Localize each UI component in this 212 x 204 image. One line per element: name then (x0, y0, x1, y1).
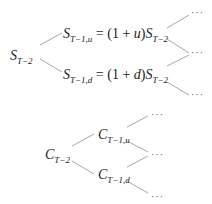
stock-root-node: ST−2 (10, 49, 33, 66)
stock-down-node: ST−1,d = (1 + d)ST−2 (63, 68, 168, 85)
option-continuation-2: ··· (151, 150, 164, 160)
equation-prefix: = (1 + (92, 26, 133, 41)
up-factor: u (134, 26, 141, 41)
subscript: T−1,u (107, 135, 129, 145)
equation-prefix: = (1 + (92, 67, 133, 82)
option-root-node: CT−2 (45, 148, 70, 165)
stock-up-node: ST−1,u = (1 + u)ST−2 (63, 27, 168, 44)
option-up-node: CT−1,u (98, 128, 130, 145)
symbol: C (45, 147, 54, 162)
edge-option-up-up (127, 116, 148, 127)
edge-option-up-down (127, 141, 148, 152)
option-continuation-3: ··· (151, 192, 164, 202)
edge-option-root-down (72, 161, 94, 174)
edge-option-root-up (72, 134, 94, 146)
symbol: S (10, 48, 17, 63)
edge-stock-root-down (40, 59, 62, 72)
option-continuation-1: ··· (151, 110, 164, 120)
down-factor: d (134, 67, 141, 82)
subscript: T−2 (54, 155, 70, 165)
subscript: T−1,d (107, 175, 129, 185)
subscript: T−2 (152, 75, 168, 85)
stock-continuation-1: ··· (191, 8, 204, 18)
subscript: T−2 (152, 34, 168, 44)
stock-continuation-2: ··· (191, 48, 204, 58)
edge-option-down-down (127, 181, 148, 193)
symbol: C (98, 127, 107, 142)
symbol: S (63, 67, 70, 82)
stock-continuation-3: ··· (191, 90, 204, 100)
subscript: T−2 (17, 56, 33, 66)
option-down-node: CT−1,d (98, 168, 130, 185)
subscript: T−1,u (70, 34, 92, 44)
edge-stock-up-down (167, 39, 189, 53)
symbol: S (63, 26, 70, 41)
edge-stock-up-up (167, 15, 189, 28)
edge-option-down-up (127, 156, 148, 167)
edge-stock-root-up (40, 33, 62, 45)
edge-stock-down-up (167, 55, 189, 66)
subscript: T−1,d (70, 75, 92, 85)
symbol: C (98, 167, 107, 182)
edge-stock-down-down (167, 82, 189, 95)
